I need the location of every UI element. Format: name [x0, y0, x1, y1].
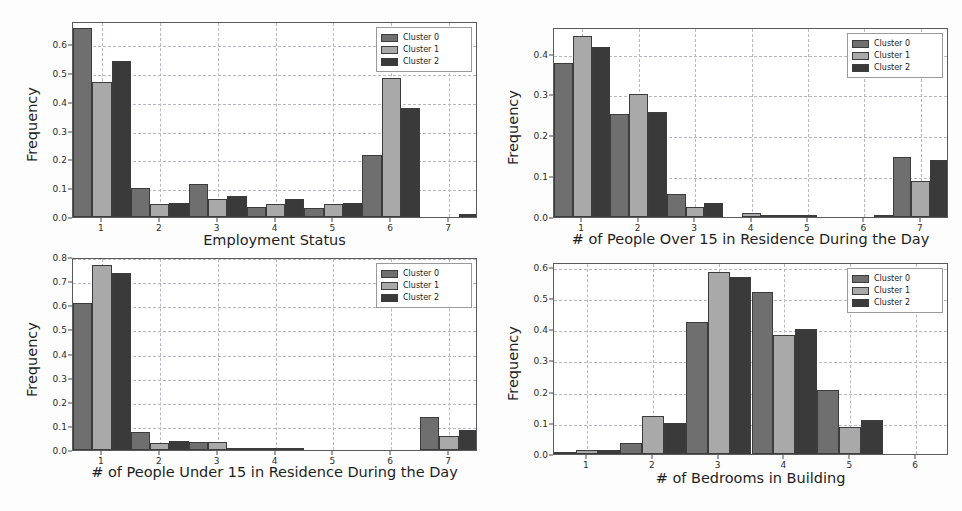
ytick-mark-3-2	[549, 392, 553, 393]
xtick-mark-3-4	[849, 455, 850, 459]
xtick-mark-3-2	[717, 455, 718, 459]
xtick-label-3-3: 4	[773, 460, 793, 470]
xtick-label-3-5: 6	[905, 460, 925, 470]
bar-c1-x5	[839, 427, 861, 454]
legend-swatch-cluster-2	[852, 299, 869, 307]
ytick-mark-3-0	[549, 455, 553, 456]
legend-entry-1: Cluster 1	[852, 285, 937, 296]
bar-c2-x5	[861, 420, 883, 454]
bar-c2-x3	[730, 277, 752, 454]
legend-entry-0: Cluster 0	[852, 273, 937, 284]
bar-c2-x1	[598, 450, 620, 454]
bar-c2-x4	[795, 329, 817, 454]
xaxis-label-3: # of Bedrooms in Building	[553, 470, 948, 486]
bar-c1-x2	[642, 416, 664, 454]
figure-canvas: Cluster 0Cluster 1Cluster 20.00.10.20.30…	[0, 0, 962, 511]
plot-area-3: Cluster 0Cluster 1Cluster 2	[553, 263, 948, 455]
bar-c1-x3	[708, 272, 730, 454]
bar-c0-x1	[554, 452, 576, 454]
ytick-mark-3-1	[549, 423, 553, 424]
ytick-label-3-2: 0.2	[519, 388, 548, 398]
xtick-mark-3-0	[585, 455, 586, 459]
legend-swatch-cluster-0	[852, 275, 869, 283]
xtick-label-3-2: 3	[708, 460, 728, 470]
legend-entry-2: Cluster 2	[852, 297, 937, 308]
xtick-mark-3-5	[915, 455, 916, 459]
xtick-label-3-1: 2	[642, 460, 662, 470]
xtick-label-3-0: 1	[576, 460, 596, 470]
legend-swatch-cluster-1	[852, 287, 869, 295]
ytick-mark-3-3	[549, 361, 553, 362]
ytick-label-3-0: 0.0	[519, 450, 548, 460]
xtick-mark-3-1	[651, 455, 652, 459]
ytick-mark-3-5	[549, 298, 553, 299]
legend-label-cluster-1: Cluster 1	[874, 286, 910, 295]
ytick-label-3-3: 0.3	[519, 356, 548, 366]
legend-label-cluster-0: Cluster 0	[874, 274, 910, 283]
chart-panel-3: Cluster 0Cluster 1Cluster 20.00.10.20.30…	[0, 0, 962, 511]
bar-c0-x4	[752, 292, 774, 454]
ytick-mark-3-4	[549, 330, 553, 331]
ytick-label-3-1: 0.1	[519, 419, 548, 429]
bar-c1-x4	[773, 335, 795, 454]
xtick-label-3-4: 5	[839, 460, 859, 470]
xtick-mark-3-3	[783, 455, 784, 459]
legend-label-cluster-2: Cluster 2	[874, 298, 910, 307]
bar-c0-x5	[817, 390, 839, 454]
ytick-label-3-6: 0.6	[519, 263, 548, 273]
bar-c0-x3	[686, 322, 708, 454]
yaxis-label-3: Frequency	[505, 326, 521, 401]
bar-c2-x2	[664, 423, 686, 454]
ytick-label-3-5: 0.5	[519, 294, 548, 304]
bar-c1-x1	[576, 450, 598, 454]
legend-3: Cluster 0Cluster 1Cluster 2	[847, 268, 943, 313]
ytick-mark-3-6	[549, 267, 553, 268]
bar-c0-x2	[620, 443, 642, 454]
ytick-label-3-4: 0.4	[519, 325, 548, 335]
